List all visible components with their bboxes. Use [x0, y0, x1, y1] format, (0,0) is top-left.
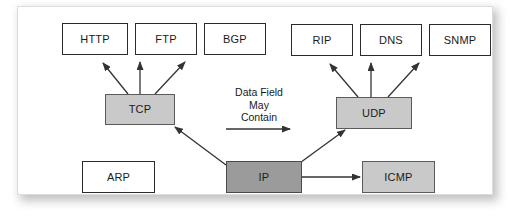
node-bgp[interactable]: BGP	[204, 23, 266, 55]
node-label: DNS	[379, 35, 403, 46]
node-icmp[interactable]: ICMP	[362, 161, 435, 193]
edge-udp-rip	[330, 64, 358, 97]
node-label: IP	[259, 172, 270, 183]
edge-tcp-http	[103, 63, 128, 94]
node-label: ICMP	[384, 172, 412, 183]
node-ip[interactable]: IP	[226, 161, 302, 193]
node-arp[interactable]: ARP	[82, 161, 155, 193]
edge-tcp-bgp	[155, 62, 185, 94]
node-label: TCP	[129, 104, 152, 115]
node-label: BGP	[223, 34, 247, 45]
edge-ip-tcp	[175, 127, 226, 165]
data-field-annotation: Data Field May Contain	[211, 86, 307, 124]
node-label: RIP	[313, 35, 332, 46]
node-udp[interactable]: UDP	[336, 97, 412, 129]
node-label: FTP	[155, 34, 176, 45]
node-rip[interactable]: RIP	[291, 24, 353, 56]
node-dns[interactable]: DNS	[360, 24, 422, 56]
diagram-canvas: HTTP FTP BGP RIP DNS SNMP TCP UDP ICMP I…	[0, 0, 512, 221]
node-snmp[interactable]: SNMP	[429, 24, 491, 56]
edge-ip-udp	[297, 130, 345, 165]
node-http[interactable]: HTTP	[62, 23, 128, 55]
node-ftp[interactable]: FTP	[135, 23, 197, 55]
node-label: SNMP	[444, 35, 477, 46]
node-label: ARP	[107, 172, 130, 183]
node-label: UDP	[362, 108, 386, 119]
node-tcp[interactable]: TCP	[105, 94, 175, 125]
edge-udp-snmp	[388, 63, 419, 97]
node-label: HTTP	[80, 34, 110, 45]
